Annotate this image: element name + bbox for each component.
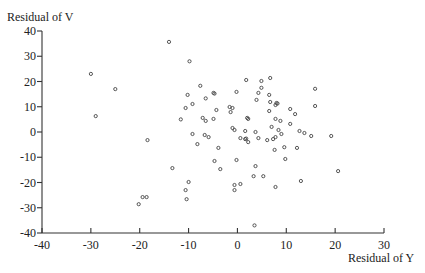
x-tick-label: 0 <box>234 238 240 252</box>
y-tick-label: 40 <box>24 24 36 38</box>
data-point <box>229 111 232 114</box>
x-axis-ticks: -40-30-20-100102030 <box>34 228 390 252</box>
data-point <box>244 129 247 132</box>
data-point <box>185 198 188 201</box>
data-point <box>268 93 271 96</box>
data-point <box>257 137 260 140</box>
x-tick-label: 30 <box>378 238 390 252</box>
data-point <box>273 148 276 151</box>
y-tick-label: -20 <box>20 176 36 190</box>
data-point <box>94 115 97 118</box>
data-point <box>274 185 277 188</box>
data-point <box>233 128 236 131</box>
data-point <box>212 117 215 120</box>
x-tick-label: 10 <box>280 238 292 252</box>
data-point <box>203 133 206 136</box>
data-point <box>233 189 236 192</box>
y-tick-label: 0 <box>30 125 36 139</box>
x-tick-label: -20 <box>132 238 148 252</box>
data-point <box>233 183 236 186</box>
data-point <box>145 196 148 199</box>
data-point <box>268 109 271 112</box>
data-point <box>201 116 204 119</box>
data-point <box>204 97 207 100</box>
data-point <box>188 60 191 63</box>
data-point <box>167 40 170 43</box>
data-point <box>191 132 194 135</box>
data-point <box>277 128 280 131</box>
x-axis-title: Residual of Y <box>348 251 415 265</box>
data-point <box>217 146 220 149</box>
data-point <box>137 203 140 206</box>
data-points <box>89 40 339 227</box>
y-tick-label: 20 <box>24 75 36 89</box>
data-point <box>255 98 258 101</box>
data-point <box>219 168 222 171</box>
data-point <box>186 93 189 96</box>
data-point <box>279 119 282 122</box>
data-point <box>262 175 265 178</box>
data-point <box>298 129 301 132</box>
data-point <box>146 139 149 142</box>
data-point <box>280 132 283 135</box>
data-point <box>303 131 306 134</box>
data-point <box>204 119 207 122</box>
data-point <box>270 125 273 128</box>
data-point <box>187 180 190 183</box>
data-point <box>254 165 257 168</box>
data-point <box>269 76 272 79</box>
data-point <box>196 143 199 146</box>
data-point <box>254 130 257 133</box>
data-point <box>207 136 210 139</box>
data-point <box>215 108 218 111</box>
data-point <box>284 157 287 160</box>
data-point <box>239 182 242 185</box>
data-point <box>274 136 277 139</box>
y-tick-label: -30 <box>20 201 36 215</box>
data-point <box>213 159 216 162</box>
data-point <box>266 139 269 142</box>
data-point <box>337 170 340 173</box>
y-axis-title: Residual of V <box>7 10 74 24</box>
data-point <box>260 79 263 82</box>
data-point <box>114 88 117 91</box>
x-tick-label: -40 <box>34 238 50 252</box>
data-point <box>252 175 255 178</box>
data-point <box>260 86 263 89</box>
data-point <box>245 78 248 81</box>
data-point <box>257 91 260 94</box>
x-tick-label: 20 <box>329 238 341 252</box>
data-point <box>235 90 238 93</box>
y-axis-ticks: -40-30-20-10010203040 <box>20 24 42 240</box>
data-point <box>274 117 277 120</box>
data-point <box>89 72 92 75</box>
data-point <box>314 104 317 107</box>
data-point <box>283 146 286 149</box>
data-point <box>235 158 238 161</box>
data-point <box>289 107 292 110</box>
data-point <box>289 122 292 125</box>
data-point <box>179 118 182 121</box>
data-point <box>239 137 242 140</box>
data-point <box>310 134 313 137</box>
data-point <box>141 196 144 199</box>
data-point <box>295 146 298 149</box>
scatter-chart: Residual of V Residual of Y -40-30-20-10… <box>0 0 425 273</box>
x-tick-label: -30 <box>83 238 99 252</box>
data-point <box>294 113 297 116</box>
data-point <box>269 100 272 103</box>
x-tick-label: -10 <box>181 238 197 252</box>
data-point <box>314 87 317 90</box>
y-tick-label: 10 <box>24 100 36 114</box>
data-point <box>199 84 202 87</box>
data-point <box>253 224 256 227</box>
data-point <box>191 102 194 105</box>
data-point <box>184 106 187 109</box>
data-point <box>171 167 174 170</box>
data-point <box>330 134 333 137</box>
data-point <box>184 189 187 192</box>
y-tick-label: -10 <box>20 150 36 164</box>
y-tick-label: 30 <box>24 49 36 63</box>
data-point <box>299 179 302 182</box>
data-point <box>247 141 250 144</box>
